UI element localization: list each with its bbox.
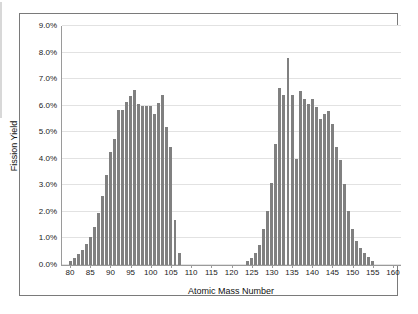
bar (339, 160, 342, 265)
bar (299, 91, 302, 265)
x-axis-tick-label: 105 (164, 269, 177, 277)
x-axis-tick-label: 115 (205, 269, 218, 277)
x-axis-tick-mark (312, 265, 313, 268)
bar (145, 106, 148, 265)
x-axis-tick-label: 85 (86, 269, 95, 277)
bar (343, 184, 346, 265)
y-axis-tick-label: 3.0% (39, 181, 57, 189)
bar (331, 124, 334, 265)
bar (319, 119, 322, 265)
bar (303, 99, 306, 265)
x-axis-tick-mark (211, 265, 212, 268)
x-axis-tick-mark (232, 265, 233, 268)
bar (246, 261, 249, 265)
y-axis-tick-label: 0.0% (39, 261, 57, 269)
bar (307, 104, 310, 265)
bar (121, 110, 124, 265)
bar (287, 58, 290, 265)
bar (85, 244, 88, 265)
bar (89, 237, 92, 265)
bar (295, 159, 298, 265)
bar (73, 258, 76, 265)
bar (169, 147, 172, 265)
bar (282, 95, 285, 265)
bar (113, 139, 116, 265)
y-axis-tick-label: 4.0% (39, 155, 57, 163)
x-axis-tick-label: 155 (366, 269, 379, 277)
x-axis-tick-label: 120 (225, 269, 238, 277)
x-axis-tick-mark (373, 265, 374, 268)
x-axis-tick-mark (90, 265, 91, 268)
x-axis-tick-mark (393, 265, 394, 268)
bar (359, 248, 362, 265)
x-axis-tick-label: 150 (346, 269, 359, 277)
x-axis-tick-mark (131, 265, 132, 268)
x-axis-tick-label: 145 (326, 269, 339, 277)
y-axis-tick-label: 5.0% (39, 128, 57, 136)
bar (258, 245, 261, 265)
x-axis-tick-mark (110, 265, 111, 268)
x-axis-tick-label: 125 (245, 269, 258, 277)
bar (367, 257, 370, 265)
bar (178, 253, 181, 265)
x-axis-tick-mark (353, 265, 354, 268)
gridline-y (62, 52, 401, 53)
bar (161, 95, 164, 265)
x-axis-tick-label: 110 (185, 269, 198, 277)
x-axis-tick-label: 130 (265, 269, 278, 277)
bar (274, 144, 277, 265)
chart-frame: 0.0%1.0%2.0%3.0%4.0%5.0%6.0%7.0%8.0%9.0%… (19, 13, 398, 296)
y-axis-tick-label: 7.0% (39, 75, 57, 83)
y-axis-tick-label: 8.0% (39, 49, 57, 57)
x-axis-tick-mark (272, 265, 273, 268)
x-axis-tick-label: 135 (285, 269, 298, 277)
gridline-y (62, 131, 401, 132)
bar (323, 114, 326, 265)
bar (335, 147, 338, 265)
bar (93, 227, 96, 266)
x-axis-tick-label: 80 (66, 269, 75, 277)
bar (157, 103, 160, 265)
bar (278, 88, 281, 265)
bar (270, 183, 273, 265)
x-axis-tick-mark (332, 265, 333, 268)
y-axis-tick-label: 1.0% (39, 234, 57, 242)
bar (363, 253, 366, 265)
bar (117, 110, 120, 265)
bar (109, 152, 112, 265)
x-axis-tick-label: 100 (144, 269, 157, 277)
bar (250, 258, 253, 265)
bar (371, 261, 374, 265)
bar (254, 253, 257, 265)
gridline-y (62, 105, 401, 106)
gridline-y (62, 25, 401, 26)
bar (327, 111, 330, 265)
bar (153, 114, 156, 265)
y-axis-tick-label: 6.0% (39, 102, 57, 110)
bar (125, 102, 128, 265)
bar (133, 90, 136, 265)
bar (315, 107, 318, 265)
x-axis-tick-mark (171, 265, 172, 268)
y-axis-tick-label: 2.0% (39, 208, 57, 216)
plot-area: 0.0%1.0%2.0%3.0%4.0%5.0%6.0%7.0%8.0%9.0%… (61, 26, 401, 266)
bar (97, 213, 100, 265)
bar (355, 241, 358, 265)
x-axis-tick-mark (252, 265, 253, 268)
bar (129, 96, 132, 265)
chart-plot-wrapper: 0.0%1.0%2.0%3.0%4.0%5.0%6.0%7.0%8.0%9.0%… (20, 14, 397, 295)
bar (347, 211, 350, 265)
bar (137, 104, 140, 265)
x-axis-tick-mark (292, 265, 293, 268)
x-axis-title: Atomic Mass Number (61, 286, 401, 296)
bar (149, 106, 152, 265)
bar (165, 127, 168, 265)
bar (101, 196, 104, 265)
y-axis-tick-label: 9.0% (39, 22, 57, 30)
bar (77, 254, 80, 265)
bar (81, 250, 84, 265)
bar (174, 220, 177, 265)
gridline-y (62, 78, 401, 79)
y-axis-title: Fission Yield (9, 86, 19, 206)
bar (291, 95, 294, 265)
